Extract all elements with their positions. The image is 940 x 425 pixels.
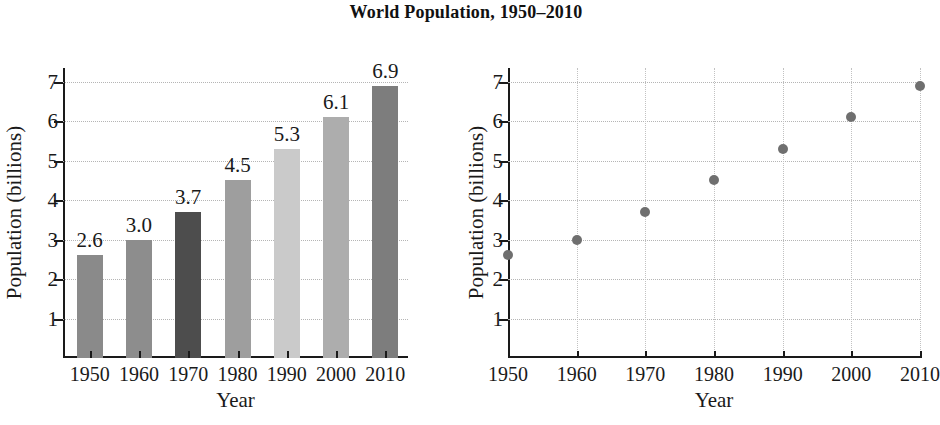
- gridline: [577, 68, 578, 358]
- gridline: [920, 68, 921, 358]
- x-axis-tick: [714, 351, 716, 358]
- bar-chart-x-axis-title: Year: [63, 388, 408, 413]
- bar: [372, 86, 398, 358]
- y-axis-tick-label: 6: [48, 111, 59, 132]
- bar-chart-y-axis-title: Population (billions): [2, 68, 27, 358]
- bar-chart-panel: Population (billions) 1234567 2.63.03.74…: [0, 0, 466, 425]
- x-axis-tick-label: 1970: [168, 364, 208, 384]
- x-axis-tick: [851, 351, 853, 358]
- y-axis-tick-label: 2: [48, 269, 59, 290]
- x-axis-tick: [90, 351, 92, 358]
- scatter-chart-y-axis-title: Population (billions): [464, 68, 489, 358]
- x-axis-tick-label: 1960: [119, 364, 159, 384]
- x-axis-tick: [385, 351, 387, 358]
- x-axis-tick-label: 1960: [557, 364, 597, 384]
- x-axis-tick-label: 2010: [900, 364, 940, 384]
- data-point: [778, 144, 788, 154]
- y-axis-tick-label: 1: [493, 308, 504, 329]
- y-axis-tick-label: 5: [48, 150, 59, 171]
- x-axis-tick: [783, 351, 785, 358]
- bar-value-label: 6.9: [372, 61, 398, 82]
- x-axis-tick-label: 1990: [763, 364, 803, 384]
- scatter-chart-y-axis-line: [508, 68, 510, 358]
- y-axis-tick-label: 4: [493, 190, 504, 211]
- y-axis-tick-label: 6: [493, 111, 504, 132]
- bar: [225, 180, 251, 358]
- bar: [126, 240, 152, 358]
- scatter-chart-panel: Population (billions) 1234567 1950196019…: [466, 0, 932, 425]
- data-point: [572, 235, 582, 245]
- x-axis-tick: [287, 351, 289, 358]
- bar-chart-y-axis-line: [63, 68, 65, 358]
- y-axis-tick-label: 7: [48, 71, 59, 92]
- bar-chart-plot-area: 1234567 2.63.03.74.55.36.16.9 1950196019…: [63, 68, 408, 358]
- x-axis-tick-label: 1990: [267, 364, 307, 384]
- x-axis-tick: [508, 351, 510, 358]
- y-axis-tick-label: 5: [493, 150, 504, 171]
- x-axis-tick: [577, 351, 579, 358]
- x-axis-tick-label: 1970: [625, 364, 665, 384]
- y-axis-tick-label: 1: [48, 308, 59, 329]
- x-axis-tick-label: 1950: [488, 364, 528, 384]
- data-point: [915, 81, 925, 91]
- data-point: [503, 250, 513, 260]
- bar-value-label: 5.3: [274, 124, 300, 145]
- x-axis-tick: [188, 351, 190, 358]
- gridline: [714, 68, 715, 358]
- x-axis-tick: [336, 351, 338, 358]
- y-axis-tick-label: 3: [48, 229, 59, 250]
- data-point: [709, 175, 719, 185]
- bar-value-label: 4.5: [224, 155, 250, 176]
- bar-value-label: 3.7: [175, 187, 201, 208]
- y-axis-tick-label: 4: [48, 190, 59, 211]
- x-axis-tick-label: 2000: [831, 364, 871, 384]
- x-axis-tick-label: 1950: [70, 364, 110, 384]
- gridline: [783, 68, 784, 358]
- y-axis-tick-label: 7: [493, 71, 504, 92]
- x-axis-tick-label: 2010: [365, 364, 405, 384]
- x-axis-tick: [920, 351, 922, 358]
- scatter-chart-x-axis-title: Year: [508, 388, 920, 413]
- y-axis-tick-label: 2: [493, 269, 504, 290]
- x-axis-tick-label: 2000: [316, 364, 356, 384]
- y-axis-tick-label: 3: [493, 229, 504, 250]
- x-axis-tick: [238, 351, 240, 358]
- data-point: [640, 207, 650, 217]
- bar-value-label: 2.6: [77, 230, 103, 251]
- bar-value-label: 6.1: [323, 92, 349, 113]
- x-axis-tick-label: 1980: [694, 364, 734, 384]
- bar: [77, 255, 103, 358]
- scatter-chart-plot-area: 1234567 1950196019701980199020002010: [508, 68, 920, 358]
- x-axis-tick-label: 1980: [218, 364, 258, 384]
- bar: [175, 212, 201, 358]
- bar: [274, 149, 300, 358]
- gridline: [63, 121, 408, 122]
- gridline: [63, 82, 408, 83]
- x-axis-tick: [139, 351, 141, 358]
- bar: [323, 117, 349, 358]
- bar-value-label: 3.0: [126, 215, 152, 236]
- x-axis-tick: [645, 351, 647, 358]
